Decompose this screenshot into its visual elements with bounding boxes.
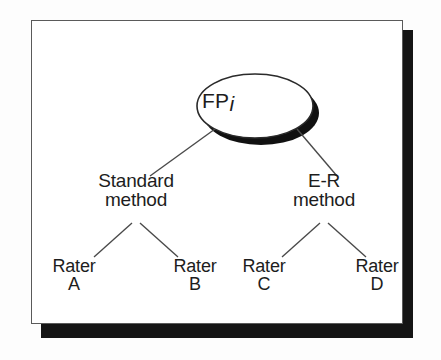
rater-a-line2: A bbox=[52, 275, 95, 293]
edge-root-to-standard-method bbox=[150, 129, 215, 176]
rater-d-line2: D bbox=[355, 275, 398, 293]
root-label-text: FP bbox=[202, 89, 229, 112]
edge-root-to-er-method bbox=[297, 129, 337, 176]
rater-d-line1: Rater bbox=[355, 256, 398, 276]
node-rater-d: Rater D bbox=[355, 257, 398, 294]
node-rater-b: Rater B bbox=[173, 257, 216, 294]
er-method-line2: method bbox=[293, 189, 355, 210]
edge-er-method-to-rater-c bbox=[282, 223, 320, 257]
edge-standard-method-to-rater-a bbox=[94, 223, 132, 257]
scanned-figure: FPi Standard method E-R method Rater A R… bbox=[0, 0, 441, 360]
root-label-subscript: i bbox=[229, 92, 234, 115]
node-rater-a: Rater A bbox=[52, 257, 95, 294]
edge-standard-method-to-rater-b bbox=[140, 223, 178, 257]
node-rater-c: Rater C bbox=[242, 257, 285, 294]
rater-b-line2: B bbox=[173, 275, 216, 293]
rater-a-line1: Rater bbox=[52, 256, 95, 276]
node-er-method: E-R method bbox=[293, 171, 355, 210]
standard-method-line2: method bbox=[105, 189, 167, 210]
er-method-line1: E-R bbox=[308, 170, 340, 191]
ellipse-node-label: FPi bbox=[32, 89, 404, 113]
node-standard-method: Standard method bbox=[98, 171, 174, 210]
edge-er-method-to-rater-d bbox=[328, 223, 366, 257]
figure-frame: FPi Standard method E-R method Rater A R… bbox=[31, 20, 403, 324]
rater-b-line1: Rater bbox=[173, 256, 216, 276]
standard-method-line1: Standard bbox=[98, 170, 174, 191]
rater-c-line1: Rater bbox=[242, 256, 285, 276]
rater-c-line2: C bbox=[242, 275, 285, 293]
